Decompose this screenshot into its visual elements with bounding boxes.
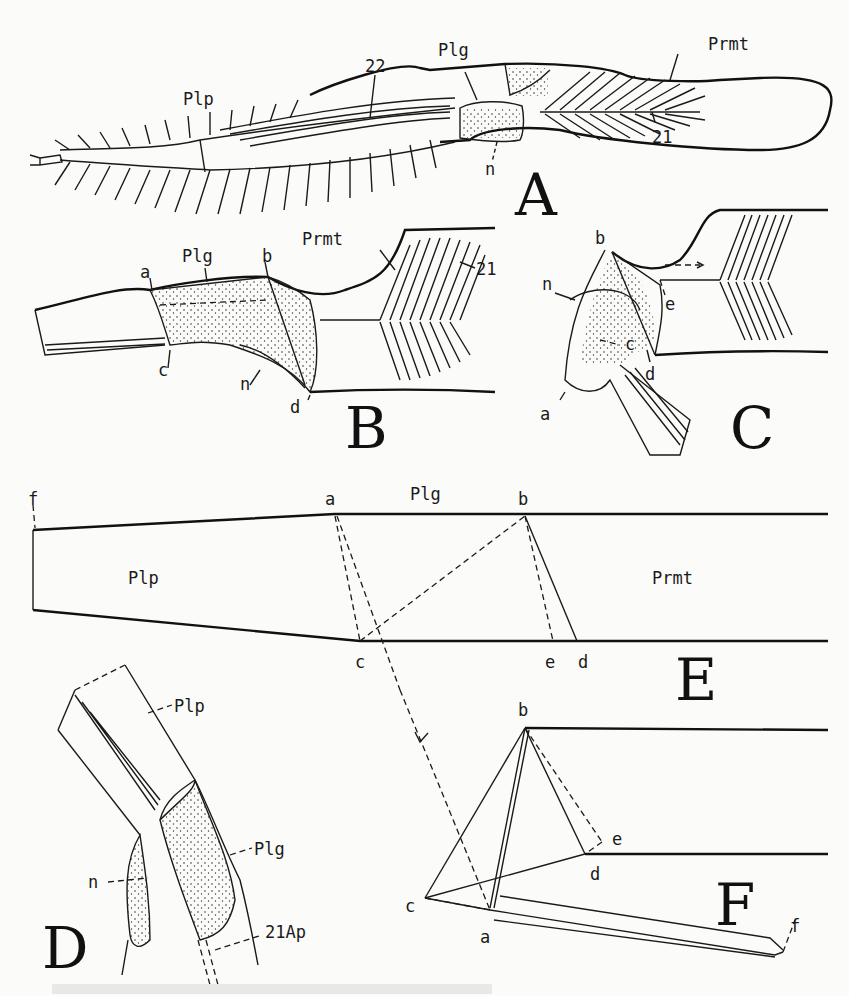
label-plp: Plp xyxy=(128,568,159,588)
panel-b: a Plg b Prmt 21 c n d B xyxy=(35,228,496,462)
label-prmt: Prmt xyxy=(708,34,749,54)
panel-letter-a: A xyxy=(514,161,558,229)
label-c: c xyxy=(355,652,365,672)
label-b: b xyxy=(595,228,605,248)
panel-f: b e d c a f F xyxy=(400,690,828,957)
caption-fragment xyxy=(52,984,492,994)
label-c: c xyxy=(158,360,168,380)
label-plg: Plg xyxy=(438,40,469,60)
muscle-21-fan-b xyxy=(380,238,485,380)
label-prmt: Prmt xyxy=(302,229,343,249)
label-plg: Plg xyxy=(410,484,441,504)
label-f: f xyxy=(28,489,38,509)
figure-canvas: Plp 22 Plg Prmt 21 n A a Plg b Prmt xyxy=(0,0,849,996)
label-e: e xyxy=(612,829,622,849)
label-f: f xyxy=(790,916,800,936)
label-b: b xyxy=(518,700,528,720)
label-plp: Plp xyxy=(183,89,214,109)
label-21ap: 21Ap xyxy=(265,922,306,942)
label-e: e xyxy=(665,294,675,314)
label-a: a xyxy=(325,489,335,509)
label-n: n xyxy=(88,872,98,892)
panel-letter-d: D xyxy=(42,914,89,982)
label-21: 21 xyxy=(476,259,496,279)
label-n: n xyxy=(542,274,552,294)
panel-a: Plp 22 Plg Prmt 21 n A xyxy=(30,34,831,229)
panel-letter-f: F xyxy=(715,871,755,939)
label-22: 22 xyxy=(365,56,385,76)
panel-c: b n e c d a C xyxy=(540,210,828,462)
panel-d: Plp Plg n 21Ap D xyxy=(42,665,306,985)
label-d: d xyxy=(645,364,655,384)
label-prmt: Prmt xyxy=(652,568,693,588)
label-c: c xyxy=(405,896,415,916)
panel-letter-b: B xyxy=(345,394,388,462)
label-n: n xyxy=(485,159,495,179)
label-plg: Plg xyxy=(254,839,285,859)
label-a: a xyxy=(480,927,490,947)
label-e: e xyxy=(545,652,555,672)
panel-e: f a Plg b Plp Prmt c e d E xyxy=(28,484,828,714)
label-21: 21 xyxy=(652,127,672,147)
label-d: d xyxy=(590,864,600,884)
label-b: b xyxy=(262,246,272,266)
label-d: d xyxy=(290,397,300,417)
panel-letter-e: E xyxy=(675,646,717,714)
label-a: a xyxy=(140,262,150,282)
label-plp: Plp xyxy=(174,696,205,716)
muscle-21-fan-c xyxy=(720,215,792,340)
label-plg: Plg xyxy=(182,246,213,266)
label-n: n xyxy=(240,374,250,394)
panel-letter-c: C xyxy=(730,394,774,462)
label-a: a xyxy=(540,404,550,424)
label-d: d xyxy=(578,652,588,672)
label-b: b xyxy=(518,489,528,509)
label-c: c xyxy=(625,334,635,354)
